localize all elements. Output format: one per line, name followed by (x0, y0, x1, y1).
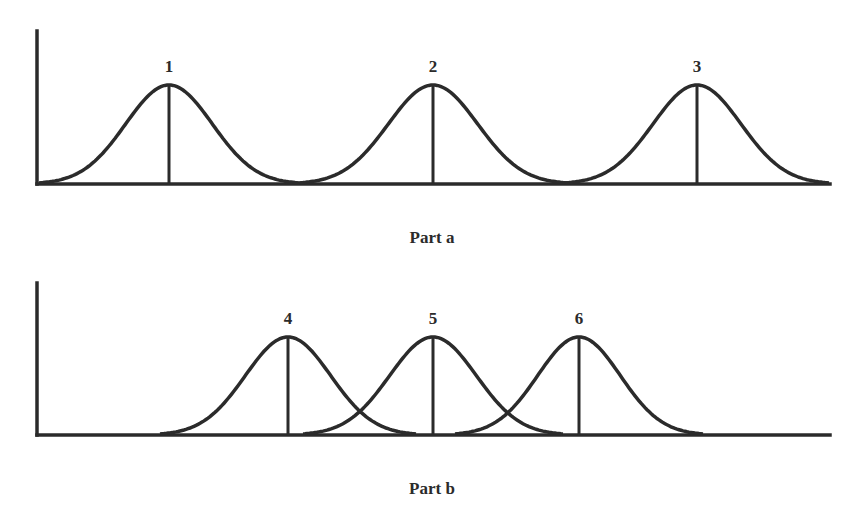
curve-label-3: 3 (693, 57, 702, 76)
curve-label-6: 6 (575, 309, 584, 328)
curve-label-5: 5 (429, 309, 438, 328)
caption-part-a: Part a (410, 228, 455, 247)
panel-part-a: 1 2 3 Part a (37, 31, 830, 247)
curve-label-4: 4 (284, 309, 293, 328)
curve-label-2: 2 (429, 57, 438, 76)
curve-label-1: 1 (165, 57, 174, 76)
caption-part-b: Part b (409, 479, 455, 498)
panel-part-b: 4 5 6 Part b (37, 283, 830, 498)
diagram-canvas: 1 2 3 Part a 4 5 6 Part b (0, 0, 861, 508)
